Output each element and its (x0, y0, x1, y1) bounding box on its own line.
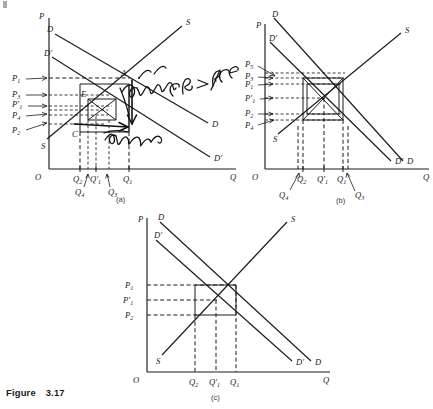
panel-a-supply-bottom-label: S (41, 141, 46, 151)
panel-c-origin-label: O (133, 375, 139, 385)
panel-a-x-axis-label: Q (230, 172, 237, 182)
figure-caption: Figure 3.17 (6, 387, 65, 398)
panel-a-origin-label: O (35, 172, 41, 182)
panel-a: P Q O D D D' D' S S (8, 6, 240, 206)
panel-b-price-label-1-prime: P′1 (244, 93, 273, 104)
panel-a-demand-shift-top-label: D' (43, 48, 52, 58)
panel-c-supply-top-label: S (291, 214, 296, 224)
panel-b: P Q O D D D' D' S S (243, 6, 433, 206)
panel-c-x-axis-label: Q (323, 375, 330, 385)
panel-a-price-label-1-prime: P′1 (11, 99, 47, 110)
panel-b-x-axis-label: Q (423, 172, 430, 182)
panel-c-quantity-label-q1-prime: Q′1 (209, 377, 220, 388)
svg-text:P′1: P′1 (11, 99, 22, 110)
panel-a-price-label-1: P1 (11, 73, 47, 84)
svg-text:P5: P5 (244, 59, 253, 70)
panel-b-tag: (b) (336, 196, 346, 205)
panel-a-annotation-quantity-change (74, 123, 162, 146)
panel-b-quantity-leader-q3: Q3 (346, 173, 364, 201)
panel-a-supply-curve (47, 26, 182, 139)
panel-a-y-axis-label: P (38, 11, 45, 21)
panel-b-y-axis-label: P (255, 20, 262, 30)
panel-b-origin-label: O (252, 172, 258, 182)
panel-b-price-label-2: P2 (244, 108, 273, 119)
panel-b-demand-shift-curve (270, 42, 391, 161)
panel-b-quantity-label-q2: Q2 (297, 174, 306, 185)
panel-b-demand-shift-top-label: D' (268, 33, 277, 43)
panel-a-quantity-label-q1-prime: Q′1 (90, 174, 101, 185)
panel-c-supply-bottom-label: S (156, 356, 161, 366)
svg-text:P2: P2 (244, 108, 253, 119)
panel-c-price-label-2: P2 (124, 310, 133, 321)
svg-text:Q3: Q3 (355, 190, 364, 201)
panel-a-demand-end-label: D (211, 119, 219, 129)
panel-c-quantity-label-q2: Q2 (189, 377, 198, 388)
panel-c-y-axis-label: P (137, 214, 144, 224)
page-corner-mark (3, 1, 7, 8)
panel-a-quantity-label-q1: Q1 (123, 174, 132, 185)
figure-page: P Q O D D D' D' S S (0, 0, 433, 409)
panel-c-demand-shift-top-label: D' (153, 230, 162, 240)
panel-a-box-diagonals (88, 99, 116, 120)
panel-c-demand-top-label: D (157, 212, 165, 222)
panel-c-quantity-label-q1: Q1 (230, 377, 239, 388)
figure-caption-number: 3.17 (46, 387, 65, 398)
panel-c-price-label-1-prime: P′1 (122, 295, 133, 306)
panel-b-supply-top-label: S (405, 25, 410, 35)
panel-a-annotation-cb-pce (170, 67, 238, 96)
panel-a-price-label-2: P2 (11, 122, 47, 136)
svg-text:P′1: P′1 (244, 93, 255, 104)
svg-text:P1: P1 (11, 73, 20, 84)
panel-b-price-label-1: P1 (244, 79, 273, 90)
panel-a-point-label-e: E (80, 89, 87, 99)
panel-b-supply-bottom-label: S (273, 134, 278, 144)
panel-b-demand-end-label: D (406, 156, 414, 166)
panel-a-demand-shift-end-label: D' (213, 153, 222, 163)
panel-c-supply-curve (162, 222, 287, 355)
panel-b-quantity-label-q1-prime: Q′1 (317, 174, 328, 185)
svg-text:P4: P4 (11, 110, 20, 121)
panel-a-quantity-label-q2: Q2 (73, 174, 82, 185)
panel-b-quantity-leader-q4: Q4 (279, 173, 300, 201)
figure-caption-label: Figure (6, 387, 36, 398)
panel-a-supply-top-label: S (186, 17, 191, 27)
panel-c-demand-end-label: D (314, 357, 322, 367)
panel-a-point-label-c: C (72, 129, 78, 139)
panel-a-annotation-price-change (120, 66, 176, 124)
panel-a-price-label-4: P4 (11, 110, 47, 121)
svg-text:P2: P2 (11, 125, 20, 136)
svg-text:Q4: Q4 (75, 187, 84, 198)
svg-text:P4: P4 (244, 120, 253, 131)
panel-c-demand-shift-end-label: D' (295, 357, 304, 367)
panel-a-demand-top-label: D (46, 24, 54, 34)
panel-c-price-label-1: P1 (124, 280, 133, 291)
panel-c-tag: (c) (211, 393, 220, 402)
panel-b-price-label-4: P4 (244, 119, 274, 131)
panel-b-demand-shift-end-label: D' (394, 156, 403, 166)
panel-a-ink-dot (138, 77, 140, 79)
panel-c: P Q O D D D' D' S S (106, 200, 336, 400)
panel-a-point-label-a: A (120, 68, 127, 78)
panel-b-demand-top-label: D (271, 9, 279, 19)
panel-b-quantity-label-q1: Q1 (337, 174, 346, 185)
